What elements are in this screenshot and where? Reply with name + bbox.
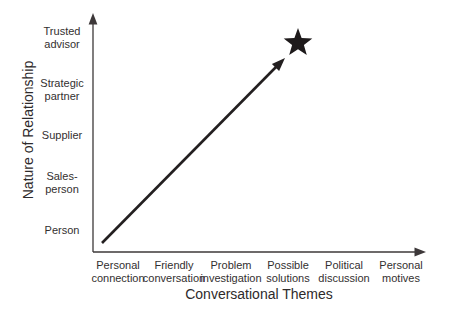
- y-tick-label-line: partner: [40, 89, 83, 102]
- x-tick-label-line: motives: [379, 271, 422, 284]
- x-tick-personal-motives: Personal motives: [379, 259, 422, 284]
- y-tick-salesperson: Sales- person: [45, 170, 79, 195]
- x-tick-label-line: Personal: [379, 259, 422, 272]
- y-tick-label-line: Supplier: [42, 129, 82, 142]
- x-tick-political-discussion: Political discussion: [318, 259, 369, 284]
- x-tick-label-line: discussion: [318, 271, 369, 284]
- x-tick-label-line: conversation: [143, 271, 205, 284]
- star-icon: [284, 28, 313, 55]
- y-axis-arrowhead-icon: [89, 13, 98, 25]
- x-tick-label-line: Political: [318, 259, 369, 272]
- x-tick-friendly-conversation: Friendly conversation: [143, 259, 205, 284]
- x-tick-label-line: investigation: [200, 271, 261, 284]
- x-tick-personal-connection: Personal connection: [91, 259, 144, 284]
- y-tick-label-line: Person: [45, 224, 80, 237]
- y-tick-label-line: Sales-: [45, 170, 79, 183]
- x-tick-label-line: Possible: [266, 259, 309, 272]
- y-tick-person: Person: [45, 224, 80, 237]
- y-tick-trusted-advisor: Trusted advisor: [44, 25, 81, 50]
- y-tick-supplier: Supplier: [42, 129, 82, 142]
- y-tick-label-line: Trusted: [44, 25, 81, 38]
- x-tick-possible-solutions: Possible solutions: [266, 259, 309, 284]
- trajectory-arrow-shaft: [102, 67, 276, 243]
- x-axis-title: Conversational Themes: [185, 286, 333, 302]
- x-tick-label-line: connection: [91, 271, 144, 284]
- x-tick-label-line: Friendly: [143, 259, 205, 272]
- relationship-themes-chart: Nature of Relationship Trusted advisor S…: [0, 0, 451, 313]
- y-tick-label-line: advisor: [44, 37, 81, 50]
- y-tick-strategic-partner: Strategic partner: [40, 77, 83, 102]
- x-tick-label-line: Problem: [200, 259, 261, 272]
- y-tick-label-line: person: [45, 182, 79, 195]
- x-tick-label-line: Personal: [91, 259, 144, 272]
- x-tick-problem-investigation: Problem investigation: [200, 259, 261, 284]
- x-axis-arrowhead-icon: [415, 248, 427, 257]
- y-axis-title: Nature of Relationship: [20, 61, 36, 200]
- y-tick-label-line: Strategic: [40, 77, 83, 90]
- x-tick-label-line: solutions: [266, 271, 309, 284]
